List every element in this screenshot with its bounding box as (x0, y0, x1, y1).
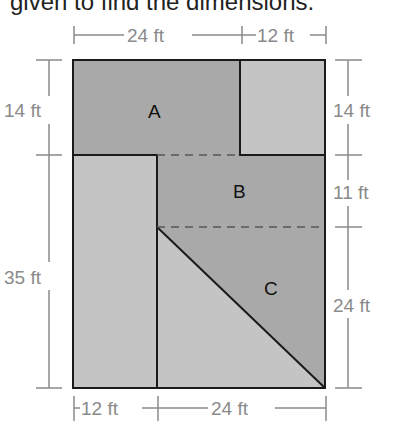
left-tall-rectangle (73, 155, 157, 388)
left-dim-label-1: 14 ft (4, 100, 42, 121)
region-label-c: C (264, 278, 278, 299)
top-dim-label-1: 24 ft (127, 25, 165, 46)
left-dim-label-2: 35 ft (4, 267, 42, 288)
right-dim-label-3: 24 ft (333, 295, 371, 316)
upper-right-square (240, 60, 325, 155)
top-dim-label-2: 12 ft (257, 25, 295, 46)
floor-plan-diagram: A B C 24 ft 12 ft 12 ft 24 ft 14 ft 35 f… (0, 0, 401, 429)
region-label-a: A (148, 101, 161, 122)
right-dim-label-1: 14 ft (333, 100, 371, 121)
right-dim-label-2: 11 ft (333, 182, 369, 203)
region-label-b: B (233, 181, 246, 202)
bottom-dim-label-1: 12 ft (81, 398, 119, 419)
bottom-dim-label-2: 24 ft (211, 398, 249, 419)
